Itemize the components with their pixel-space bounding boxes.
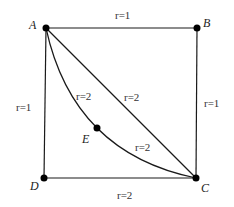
node-a [43, 25, 50, 32]
weight-diagonal: r=2 [124, 91, 139, 103]
edge-ad [44, 28, 46, 178]
node-d [41, 175, 48, 182]
node-b [194, 25, 201, 32]
circuit-diagram: A B C D E r=1 r=1 r=1 r=2 r=2 r=2 r=2 [0, 0, 234, 207]
label-b: B [203, 16, 211, 30]
weight-right: r=1 [204, 97, 219, 109]
weight-top: r=1 [115, 9, 130, 21]
weight-left: r=1 [16, 101, 31, 113]
node-e [94, 125, 101, 132]
node-c [193, 175, 200, 182]
label-e: E [81, 132, 90, 146]
weight-bottom: r=2 [117, 189, 132, 201]
edge-ac-diagonal [46, 28, 196, 178]
weight-arc-lower: r=2 [135, 141, 150, 153]
label-d: D [29, 179, 39, 193]
weight-arc-upper: r=2 [76, 90, 91, 102]
label-c: C [201, 181, 210, 195]
edge-bc [196, 28, 197, 178]
label-a: A [28, 18, 37, 32]
